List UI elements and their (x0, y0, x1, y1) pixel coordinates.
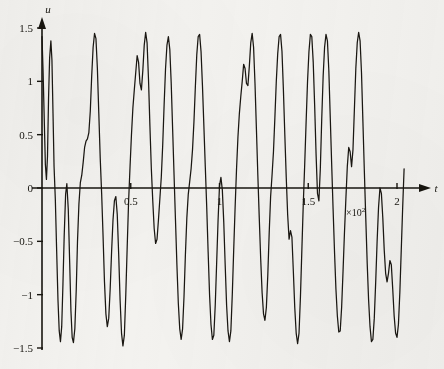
y-tick-label: 0.5 (19, 129, 33, 141)
y-tick-label: −0.5 (13, 235, 33, 247)
series-u-of-t (42, 32, 404, 346)
y-axis: 1.510.50−0.5−1−1.5 (13, 17, 46, 354)
x-axis-arrow-icon (419, 184, 431, 192)
x-tick-label: 1 (217, 195, 223, 207)
y-axis-arrow-icon (38, 17, 46, 29)
x-axis-tick-labels: 0.511.52 (124, 195, 400, 207)
y-tick-label: −1 (21, 289, 33, 301)
y-tick-label: 1 (28, 75, 34, 87)
x-tick-label: 1.5 (301, 195, 315, 207)
y-tick-label: −1.5 (13, 342, 33, 354)
x-axis-scale-annotation: ×102 (346, 206, 366, 218)
x-axis: 0.511.52 (32, 183, 431, 207)
x-axis-name-label: t (434, 182, 438, 194)
chart-figure: 1.510.50−0.5−1−1.5 0.511.52 u t ×102 (0, 0, 444, 369)
y-axis-name-label: u (45, 3, 51, 15)
x-tick-label: 0.5 (124, 195, 138, 207)
x-tick-label: 2 (394, 195, 400, 207)
oscillation-time-series-chart: 1.510.50−0.5−1−1.5 0.511.52 u t ×102 (0, 0, 444, 369)
y-axis-tick-labels: 1.510.50−0.5−1−1.5 (13, 22, 33, 354)
y-tick-label: 1.5 (19, 22, 33, 34)
